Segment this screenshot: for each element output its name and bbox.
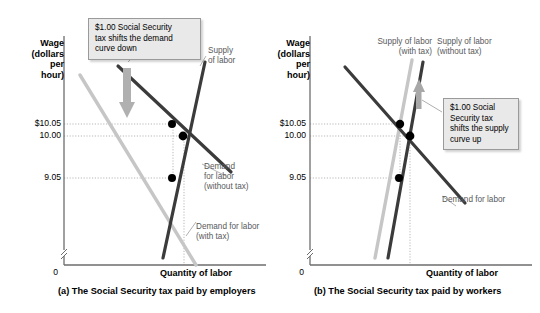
demand-with-tax-curve bbox=[80, 75, 196, 265]
y-tick-10-00-a: 10.00 bbox=[14, 131, 61, 140]
panel-a: Wage (dollars per hour) $10.05 10.00 9.0… bbox=[0, 0, 270, 313]
demand-without-tax-curve bbox=[118, 66, 231, 172]
y-tick-10-05-b: $10.05 bbox=[258, 119, 306, 128]
point-wage-9-05 bbox=[395, 174, 403, 182]
y-axis-title-b: Wage (dollars per hour) bbox=[270, 38, 310, 80]
point-wage-10-05 bbox=[396, 120, 404, 128]
point-wage-10-05 bbox=[168, 120, 176, 128]
point-wage-10-00 bbox=[179, 132, 188, 141]
y-tick-10-00-b: 10.00 bbox=[258, 131, 306, 140]
panel-b: Wage (dollars per hour) $10.05 10.00 9.0… bbox=[270, 0, 540, 313]
x-axis-title-b: Quantity of labor bbox=[426, 268, 498, 279]
social-security-tax-figure: Wage (dollars per hour) $10.05 10.00 9.0… bbox=[0, 0, 540, 313]
y-tick-10-05-a: $10.05 bbox=[14, 119, 61, 128]
point-wage-9-05 bbox=[168, 174, 176, 182]
supply-with-tax-label-b: Supply of labor (with tax) bbox=[350, 37, 432, 57]
callout-demand-shift: $1.00 Social Security tax shifts the dem… bbox=[88, 18, 201, 60]
callout-leader-b bbox=[422, 100, 442, 112]
point-wage-10-00 bbox=[406, 132, 415, 141]
panel-a-caption: (a) The Social Security tax paid by empl… bbox=[58, 286, 256, 296]
demand-without-tax-label-a: Demand for labor (without tax) bbox=[204, 162, 249, 193]
demand-with-tax-label-a: Demand for labor (with tax) bbox=[196, 222, 259, 242]
down-arrow-icon bbox=[119, 68, 135, 118]
demand-with-tax-label-leader bbox=[186, 222, 196, 236]
y-tick-9-05-b: 9.05 bbox=[258, 173, 306, 182]
origin-label-a: 0 bbox=[44, 268, 58, 277]
callout-supply-shift: $1.00 Social Security tax shifts the sup… bbox=[443, 98, 519, 150]
y-tick-9-05-a: 9.05 bbox=[14, 173, 61, 182]
panel-b-caption: (b) The Social Security tax paid by work… bbox=[314, 286, 501, 296]
supply-curve-label-a: Supply of labor bbox=[208, 46, 235, 66]
x-axis-title-a: Quantity of labor bbox=[160, 268, 232, 279]
origin-label-b: 0 bbox=[290, 268, 304, 277]
demand-label-b: Demand for labor bbox=[442, 195, 505, 205]
supply-without-tax-label-b: Supply of labor (without tax) bbox=[437, 37, 492, 57]
y-axis-title-a: Wage (dollars per hour) bbox=[24, 38, 64, 80]
